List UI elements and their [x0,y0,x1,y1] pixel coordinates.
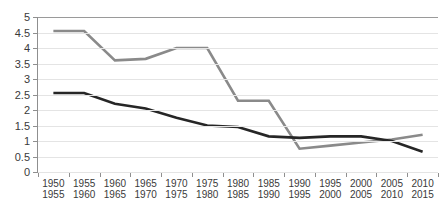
x-tick-mark [69,173,70,177]
x-tick-label-start: 1965 [135,178,157,189]
y-tick-label: 3.5 [15,58,30,69]
x-tick-label: 19952000 [319,178,341,200]
x-tick-label-start: 2000 [350,178,372,189]
x-axis: 1950195519551960196019651965197019701975… [38,178,438,212]
y-tick-mark [33,33,37,34]
y-tick-label: 5 [24,12,30,23]
x-tick-label: 19601965 [104,178,126,200]
gridline [38,110,438,111]
x-tick-label-end: 1990 [258,189,280,200]
y-tick-mark [33,48,37,49]
y-tick-label: 1 [24,136,30,147]
y-tick-label: 2 [24,105,30,116]
gridline [38,95,438,96]
x-tick-label-end: 1980 [196,189,218,200]
x-tick-mark [38,173,39,177]
y-tick-mark [33,95,37,96]
gridline [38,79,438,80]
x-tick-label-end: 1955 [42,189,64,200]
x-tick-label: 19801985 [227,178,249,200]
gridline [38,141,438,142]
x-tick-label: 19901995 [288,178,310,200]
y-tick-mark [33,157,37,158]
x-tick-label-end: 1975 [165,189,187,200]
gridline [38,172,438,173]
x-tick-mark [161,173,162,177]
x-tick-label-start: 2005 [381,178,403,189]
gridline [38,17,438,18]
x-tick-label-start: 1975 [196,178,218,189]
x-tick-mark [192,173,193,177]
x-tick-label-end: 2010 [381,189,403,200]
x-tick-mark [100,173,101,177]
y-tick-mark [33,17,37,18]
x-tick-label: 19851990 [258,178,280,200]
x-tick-mark [407,173,408,177]
y-tick-label: 0.5 [15,151,30,162]
gridline [38,33,438,34]
x-tick-label-start: 1950 [42,178,64,189]
y-tick-label: 4.5 [15,27,30,38]
gridline [38,157,438,158]
x-tick-label-start: 1980 [227,178,249,189]
x-tick-label: 20002005 [350,178,372,200]
y-tick-mark [33,172,37,173]
x-tick-label-start: 1995 [319,178,341,189]
x-tick-mark [346,173,347,177]
y-tick-label: 0 [24,167,30,178]
x-tick-label: 19751980 [196,178,218,200]
x-tick-label-end: 2015 [411,189,433,200]
gridline [38,64,438,65]
x-tick-mark [223,173,224,177]
x-tick-mark [130,173,131,177]
x-tick-label: 19551960 [73,178,95,200]
line-chart: 00.511.522.533.544.55 195019551955196019… [0,0,444,213]
x-tick-label-start: 1955 [73,178,95,189]
x-tick-mark [284,173,285,177]
x-tick-label-start: 1970 [165,178,187,189]
x-tick-label-end: 1970 [135,189,157,200]
plot-area [38,17,438,172]
x-tick-label-end: 1965 [104,189,126,200]
y-tick-label: 2.5 [15,89,30,100]
y-axis: 00.511.522.533.544.55 [0,0,30,213]
x-tick-label: 19501955 [42,178,64,200]
y-tick-mark [33,110,37,111]
x-tick-mark [315,173,316,177]
x-tick-mark [253,173,254,177]
y-tick-label: 1.5 [15,120,30,131]
x-tick-label: 19651970 [135,178,157,200]
x-tick-label-end: 1960 [73,189,95,200]
x-tick-label-start: 1985 [258,178,280,189]
x-tick-mark [376,173,377,177]
x-tick-label: 20102015 [411,178,433,200]
gridline [38,48,438,49]
y-tick-mark [33,79,37,80]
y-tick-mark [33,64,37,65]
x-tick-label-start: 1990 [288,178,310,189]
x-tick-label-start: 2010 [411,178,433,189]
y-tick-mark [33,126,37,127]
x-tick-label: 20052010 [381,178,403,200]
x-tick-mark [438,173,439,177]
x-tick-label-end: 1995 [288,189,310,200]
y-tick-label: 3 [24,74,30,85]
x-tick-label-end: 2000 [319,189,341,200]
x-tick-label-start: 1960 [104,178,126,189]
y-tick-mark [33,141,37,142]
gridline [38,126,438,127]
y-tick-label: 4 [24,43,30,54]
x-tick-label-end: 1985 [227,189,249,200]
x-tick-label-end: 2005 [350,189,372,200]
x-tick-label: 19701975 [165,178,187,200]
